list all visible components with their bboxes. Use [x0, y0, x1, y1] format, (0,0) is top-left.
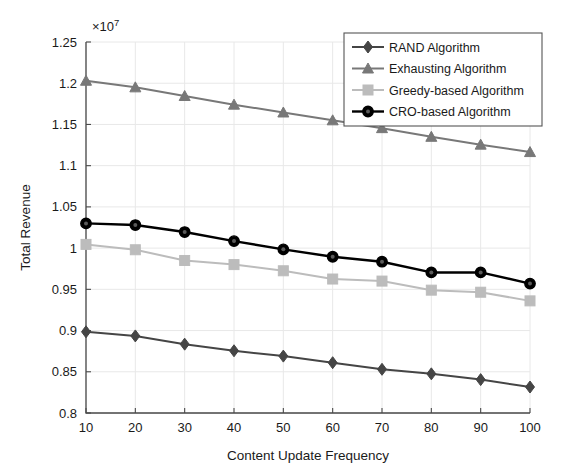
- y-tick-label: 1.05: [52, 199, 77, 214]
- data-point-marker-square: [180, 255, 190, 265]
- y-tick-label: 0.95: [52, 282, 77, 297]
- series-line: [86, 332, 530, 387]
- x-tick-label: 10: [79, 420, 93, 435]
- legend-label: Exhausting Algorithm: [389, 62, 506, 76]
- data-point-marker-square: [81, 239, 91, 249]
- x-tick-label: 70: [375, 420, 389, 435]
- data-point-marker-diamond: [131, 330, 140, 342]
- y-tick-label: 0.8: [59, 406, 77, 421]
- data-point-marker-diamond: [427, 368, 436, 380]
- line-chart-plot: 0.80.850.90.9511.051.11.151.21.251020304…: [0, 0, 565, 476]
- data-point-marker-diamond: [180, 338, 189, 350]
- data-point-marker-circle-inner: [183, 230, 187, 234]
- x-tick-label: 30: [177, 420, 191, 435]
- data-point-marker-diamond: [82, 326, 91, 338]
- data-point-marker-circle-inner: [479, 270, 483, 274]
- data-point-marker-circle-inner: [133, 223, 137, 227]
- x-tick-label: 60: [325, 420, 339, 435]
- data-point-marker-diamond: [328, 357, 337, 369]
- data-point-marker-square: [426, 285, 436, 295]
- data-point-marker-diamond: [476, 374, 485, 386]
- y-axis-title: Total Revenue: [18, 184, 33, 270]
- data-point-marker-diamond: [279, 350, 288, 362]
- y-tick-label: 1.25: [52, 35, 77, 50]
- y-tick-label: 0.9: [59, 323, 77, 338]
- data-point-marker-square: [278, 266, 288, 276]
- legend-label: RAND Algorithm: [389, 41, 480, 55]
- data-point-marker-circle-inner: [380, 260, 384, 264]
- data-point-marker-square: [229, 260, 239, 270]
- data-point-marker-square: [377, 276, 387, 286]
- data-point-marker-circle-inner: [429, 270, 433, 274]
- y-tick-label: 0.85: [52, 364, 77, 379]
- y-tick-label: 1: [70, 241, 77, 256]
- data-point-marker-square: [130, 245, 140, 255]
- data-point-marker-square: [328, 274, 338, 284]
- y-tick-label: 1.1: [59, 158, 77, 173]
- data-point-marker-circle-inner: [281, 247, 285, 251]
- data-point-marker-square: [525, 296, 535, 306]
- legend-marker-inner: [366, 110, 370, 114]
- x-tick-label: 20: [128, 420, 142, 435]
- legend-label: Greedy-based Algorithm: [389, 84, 524, 98]
- data-point-marker-circle-inner: [331, 255, 335, 259]
- data-point-marker-circle-inner: [232, 239, 236, 243]
- chart-figure: 0.80.850.90.9511.051.11.151.21.251020304…: [0, 0, 565, 476]
- x-axis-title: Content Update Frequency: [227, 448, 389, 463]
- y-axis-exponent: ×107: [92, 17, 119, 34]
- series-group: [82, 326, 535, 393]
- data-point-marker-circle-inner: [84, 221, 88, 225]
- x-tick-label: 80: [424, 420, 438, 435]
- data-point-marker-triangle: [81, 75, 92, 85]
- chart-legend: RAND AlgorithmExhausting AlgorithmGreedy…: [344, 33, 542, 126]
- legend-label: CRO-based Algorithm: [389, 105, 511, 119]
- x-tick-label: 40: [227, 420, 241, 435]
- y-tick-label: 1.15: [52, 117, 77, 132]
- data-point-marker-square: [476, 287, 486, 297]
- data-point-marker-circle-inner: [528, 282, 532, 286]
- data-point-marker-diamond: [230, 345, 239, 357]
- y-tick-label: 1.2: [59, 76, 77, 91]
- data-point-marker-diamond: [378, 363, 387, 375]
- x-tick-label: 90: [473, 420, 487, 435]
- data-point-marker-square: [363, 85, 373, 95]
- data-point-marker-diamond: [526, 381, 535, 393]
- x-tick-label: 50: [276, 420, 290, 435]
- x-tick-label: 100: [519, 420, 541, 435]
